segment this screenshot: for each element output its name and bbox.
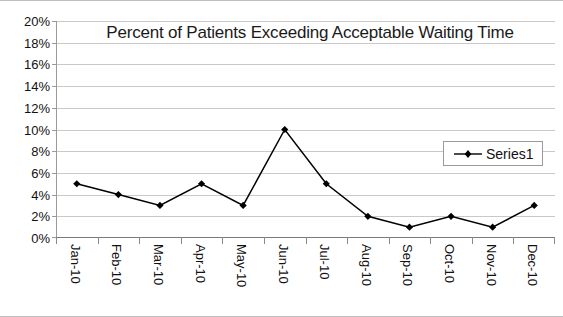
data-point-marker xyxy=(198,180,205,187)
y-axis-tick xyxy=(52,195,57,196)
x-axis-tick xyxy=(347,237,348,244)
y-axis-tick xyxy=(52,21,57,22)
x-axis-tick xyxy=(98,237,99,244)
x-axis-tick xyxy=(264,237,265,244)
x-axis-label: Jan-10 xyxy=(68,244,83,284)
x-axis-tick xyxy=(306,237,307,244)
x-axis-tick xyxy=(389,237,390,244)
x-axis-tick xyxy=(430,237,431,244)
data-point-marker xyxy=(489,224,496,231)
data-point-marker xyxy=(73,180,80,187)
x-axis-tick xyxy=(554,237,555,244)
y-axis-tick xyxy=(52,173,57,174)
x-axis-tick xyxy=(513,237,514,244)
data-point-marker xyxy=(156,202,163,209)
chart-figure: Percent of Patients Exceeding Acceptable… xyxy=(0,0,563,317)
x-axis-label: Oct-10 xyxy=(442,244,457,283)
y-axis-tick xyxy=(52,86,57,87)
x-axis-label: Jun-10 xyxy=(276,244,291,284)
y-axis-label: 6% xyxy=(4,165,50,180)
y-axis-label: 8% xyxy=(4,144,50,159)
x-axis-label: Nov-10 xyxy=(484,244,499,286)
x-axis-tick xyxy=(472,237,473,244)
x-axis-label: Dec-10 xyxy=(525,244,540,286)
y-axis-label: 20% xyxy=(4,14,50,29)
y-axis-label: 4% xyxy=(4,187,50,202)
x-axis-tick xyxy=(139,237,140,244)
y-axis-tick xyxy=(52,151,57,152)
x-axis-tick xyxy=(222,237,223,244)
y-axis-tick xyxy=(52,43,57,44)
y-axis-label: 2% xyxy=(4,209,50,224)
chart-legend: Series1 xyxy=(443,141,543,166)
y-axis-label: 12% xyxy=(4,100,50,115)
x-axis-label: Mar-10 xyxy=(151,244,166,285)
series-plot xyxy=(56,21,555,238)
y-axis-label: 14% xyxy=(4,79,50,94)
y-axis-labels: 20%18%16%14%12%10%8%6%4%2%0% xyxy=(0,21,50,238)
x-axis-tick xyxy=(181,237,182,244)
y-axis-label: 0% xyxy=(4,231,50,246)
data-point-marker xyxy=(240,202,247,209)
data-point-marker xyxy=(115,191,122,198)
plot-area xyxy=(56,21,555,238)
y-axis-tick xyxy=(52,64,57,65)
x-axis-label: Apr-10 xyxy=(193,244,208,283)
x-axis-tick xyxy=(56,237,57,244)
y-axis-tick xyxy=(52,108,57,109)
y-axis-tick xyxy=(52,130,57,131)
x-axis-label: Jul-10 xyxy=(317,244,332,279)
y-axis-tick xyxy=(52,216,57,217)
legend-line-marker-icon xyxy=(453,148,483,160)
y-axis-label: 10% xyxy=(4,122,50,137)
x-axis-label: Aug-10 xyxy=(359,244,374,286)
x-axis-label: May-10 xyxy=(234,244,249,287)
x-axis-labels: Jan-10Feb-10Mar-10Apr-10May-10Jun-10Jul-… xyxy=(56,244,555,314)
legend-entry-label: Series1 xyxy=(486,146,533,162)
data-point-marker xyxy=(406,224,413,231)
data-point-marker xyxy=(531,202,538,209)
y-axis-label: 16% xyxy=(4,57,50,72)
y-axis-label: 18% xyxy=(4,35,50,50)
x-axis-label: Sep-10 xyxy=(400,244,415,286)
data-point-marker xyxy=(447,213,454,220)
x-axis-label: Feb-10 xyxy=(109,244,124,285)
